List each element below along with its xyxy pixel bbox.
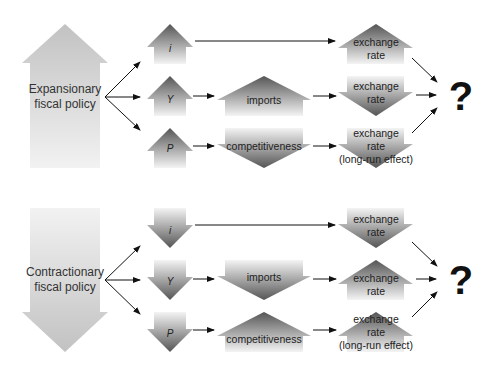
fx-line1: exchange xyxy=(339,127,413,140)
policy-label-line1: Expansionary xyxy=(29,82,102,97)
diagram-canvas xyxy=(0,0,496,371)
competitiveness-label: competitiveness xyxy=(226,333,301,346)
imports-label: imports xyxy=(247,94,281,107)
fx-line1: exchange xyxy=(353,36,399,49)
fx-line2: rate xyxy=(339,326,413,339)
fx-line3: (long-run effect) xyxy=(339,339,413,352)
imports-label: imports xyxy=(247,271,281,284)
fx-row1-label: exchange rate xyxy=(353,213,399,239)
branch-arrows-bottom xyxy=(105,246,140,314)
var-p-label: P xyxy=(167,327,174,340)
fx-line1: exchange xyxy=(353,213,399,226)
competitiveness-label: competitiveness xyxy=(226,140,301,153)
fx-line3: (long-run effect) xyxy=(339,153,413,166)
fx-row3-label: exchange rate (long-run effect) xyxy=(339,313,413,352)
var-y-label: Y xyxy=(167,93,174,106)
fx-row2-label: exchange rate xyxy=(353,80,399,106)
fx-row3-label: exchange rate (long-run effect) xyxy=(339,127,413,166)
fx-row2-label: exchange rate xyxy=(353,272,399,298)
var-p-label: P xyxy=(167,142,174,155)
fx-line2: rate xyxy=(353,285,399,298)
policy-label-line2: fiscal policy xyxy=(29,97,102,112)
fx-line1: exchange xyxy=(353,80,399,93)
fx-line1: exchange xyxy=(353,272,399,285)
fx-line1: exchange xyxy=(339,313,413,326)
policy-label-line1: Contractionary xyxy=(26,265,104,280)
result-arrows-bottom xyxy=(412,242,437,317)
result-arrows xyxy=(412,58,437,133)
fx-row1-label: exchange rate xyxy=(353,36,399,62)
policy-label-line2: fiscal policy xyxy=(26,280,104,295)
var-i-label: i xyxy=(169,42,171,55)
fx-line2: rate xyxy=(339,140,413,153)
fx-line2: rate xyxy=(353,226,399,239)
branch-arrows xyxy=(105,62,140,130)
fx-line2: rate xyxy=(353,49,399,62)
var-y-label: Y xyxy=(167,275,174,288)
result-question-mark: ? xyxy=(449,74,473,119)
var-i-label: i xyxy=(169,224,171,237)
policy-label-expansionary: Expansionary fiscal policy xyxy=(29,82,102,112)
fx-line2: rate xyxy=(353,93,399,106)
policy-label-contractionary: Contractionary fiscal policy xyxy=(26,265,104,295)
result-question-mark: ? xyxy=(449,258,473,303)
